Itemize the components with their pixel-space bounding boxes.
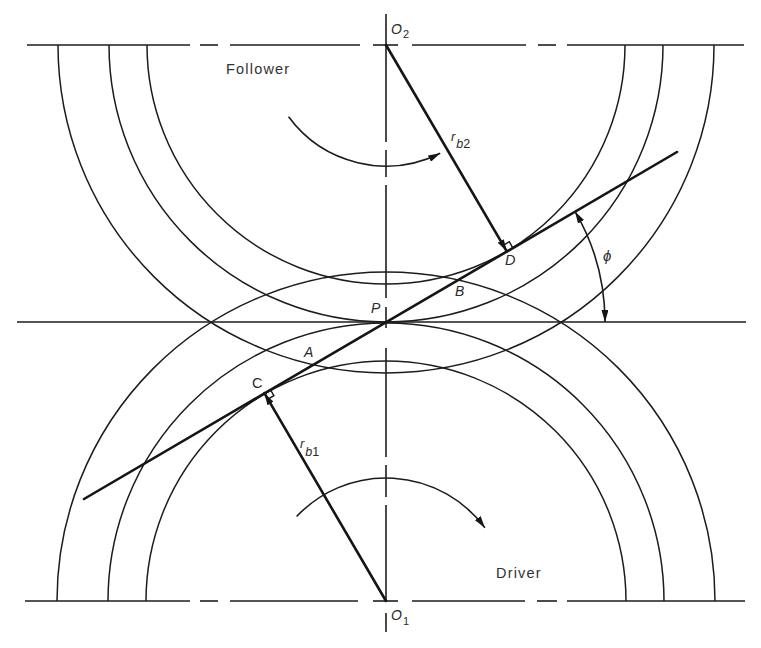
- center-o2-base: O: [391, 21, 402, 37]
- rb1-sub-letter: b: [305, 445, 312, 459]
- point-a-label: A: [303, 344, 313, 360]
- follower-rotation-arrow-icon: [289, 117, 441, 166]
- rb2-label: rb2: [451, 129, 470, 151]
- line-of-action: [84, 152, 677, 499]
- base-radius-rb1: [264, 393, 386, 601]
- rb1-base: r: [300, 436, 305, 451]
- point-c-label: C: [252, 375, 262, 391]
- rb2-base: r: [451, 129, 456, 144]
- rb1-label: rb1: [300, 436, 319, 459]
- center-o2-sub: 2: [403, 28, 409, 40]
- center-o1-label: O1: [391, 607, 409, 627]
- driver-label: Driver: [496, 565, 542, 581]
- pressure-angle-arc: [575, 211, 605, 322]
- center-o1-sub: 1: [403, 615, 409, 627]
- follower-label: Follower: [226, 61, 290, 77]
- point-d-label: D: [505, 252, 515, 268]
- rb1-sub-index: 1: [312, 445, 319, 459]
- base-radius-rb2: [386, 45, 507, 251]
- gear-mesh-diagram: Follower Driver O2 O1 P A B C D ϕ rb2 rb…: [0, 0, 761, 648]
- center-o1-base: O: [391, 607, 402, 623]
- driver-rotation-arrow-icon: [297, 478, 485, 528]
- center-o2-label: O2: [391, 21, 409, 40]
- point-b-label: B: [455, 283, 464, 299]
- rb2-sub-letter: b: [456, 137, 463, 151]
- pitch-point-label: P: [371, 300, 381, 316]
- rb2-sub-index: 2: [463, 137, 470, 151]
- pressure-angle-label: ϕ: [603, 247, 611, 264]
